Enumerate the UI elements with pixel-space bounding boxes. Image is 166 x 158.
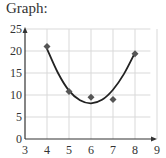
y-tick-label: 5: [16, 110, 22, 124]
data-point-marker: [44, 43, 51, 50]
x-axis-arrow-icon: [151, 137, 157, 142]
x-tick-label: 3: [22, 143, 28, 157]
x-tick-label: 8: [132, 143, 138, 157]
data-point-marker: [110, 96, 117, 103]
y-tick-label: 25: [10, 22, 22, 36]
x-tick-label: 4: [44, 143, 50, 157]
x-tick-label: 6: [88, 143, 94, 157]
y-tick-label: 0: [16, 132, 22, 146]
y-tick-label: 15: [10, 66, 22, 80]
y-tick-label: 10: [10, 88, 22, 102]
y-tick-label: 20: [10, 44, 22, 58]
x-tick-label: 9: [154, 143, 160, 157]
y-axis-arrow-icon: [23, 27, 28, 33]
x-tick-label: 5: [66, 143, 72, 157]
x-tick-label: 7: [110, 143, 116, 157]
scatter-chart: 34567890510152025: [0, 0, 166, 158]
